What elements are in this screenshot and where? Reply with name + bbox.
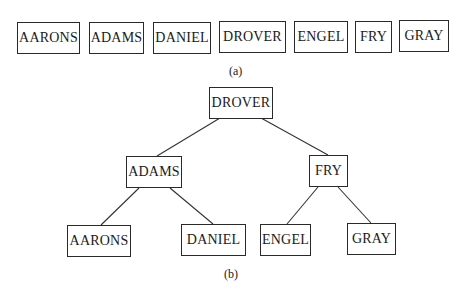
edge-adams-aarons [101, 188, 139, 225]
tree-node-fry: FRY [309, 155, 348, 187]
tree-node-gray: GRAY [347, 223, 396, 255]
tree-node-aarons: AARONS [67, 225, 131, 257]
edge-fry-engel [287, 187, 318, 224]
tree-node-adams: ADAMS [126, 156, 182, 188]
edge-drover-fry [261, 118, 328, 155]
tree-node-daniel: DANIEL [181, 224, 246, 256]
caption-b: (b) [224, 267, 238, 282]
tree-node-engel: ENGEL [260, 224, 311, 256]
edge-adams-daniel [170, 188, 213, 224]
tree-node-drover: DROVER [209, 87, 273, 119]
edge-drover-adams [157, 118, 220, 156]
edge-fry-gray [338, 187, 371, 223]
